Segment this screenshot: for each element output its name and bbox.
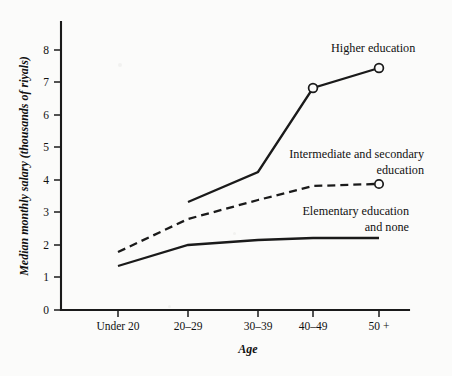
y-tick-label: 8 xyxy=(43,44,49,56)
y-tick-label: 3 xyxy=(43,206,49,218)
x-axis-title: Age xyxy=(237,342,258,356)
series-label-intermediate-secondary: Intermediate and secondary education xyxy=(289,147,425,177)
x-tick-label-40-49: 40–49 xyxy=(299,320,328,332)
y-tick-label: 1 xyxy=(43,271,49,283)
series-label-line-1: Elementary education xyxy=(302,204,409,218)
scan-speck xyxy=(168,305,171,308)
y-tick-label: 6 xyxy=(43,109,49,121)
series-line-higher-education xyxy=(188,68,379,202)
series-label-line-1: Intermediate and secondary xyxy=(289,147,425,161)
data-point-marker-intermediate-50-plus xyxy=(375,180,383,188)
y-tick-label: 4 xyxy=(43,174,49,186)
x-axis-tick-labels: Under 20 20–29 30–39 40–49 50 + xyxy=(96,320,389,332)
x-tick-label-30-39: 30–39 xyxy=(244,320,273,332)
data-point-marker-higher-50-plus xyxy=(375,64,384,73)
series-label-line-2: and none xyxy=(365,220,409,234)
y-axis-title: Median monthly salary (thousands of riya… xyxy=(17,56,31,277)
x-tick-label-50-plus: 50 + xyxy=(369,320,390,332)
y-tick-label: 5 xyxy=(43,141,49,153)
data-point-marker-higher-40-49 xyxy=(309,84,318,93)
chart-canvas: 8 7 6 5 4 3 2 1 0 Under 20 20–29 30–39 4… xyxy=(0,0,452,376)
y-tick-label: 0 xyxy=(43,304,49,316)
x-tick-label-under-20: Under 20 xyxy=(96,320,139,332)
y-axis-tick-labels: 8 7 6 5 4 3 2 1 0 xyxy=(43,44,49,316)
series-line-elementary-education xyxy=(118,238,379,266)
y-tick-label: 7 xyxy=(43,76,49,88)
scan-speck xyxy=(233,232,236,235)
salary-by-age-line-chart: 8 7 6 5 4 3 2 1 0 Under 20 20–29 30–39 4… xyxy=(0,0,452,376)
series-label-elementary-education: Elementary education and none xyxy=(302,204,409,234)
series-label-higher-education: Higher education xyxy=(331,41,415,55)
x-tick-label-20-29: 20–29 xyxy=(174,320,203,332)
y-tick-label: 2 xyxy=(43,239,49,251)
series-label-line-2: education xyxy=(377,163,424,177)
scan-speck xyxy=(118,63,122,67)
